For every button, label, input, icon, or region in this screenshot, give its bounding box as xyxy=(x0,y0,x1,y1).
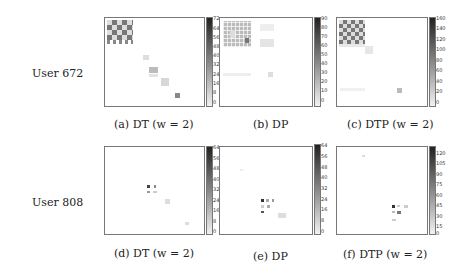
colorbar-b xyxy=(314,17,321,107)
row-label-user-808: User 808 xyxy=(32,196,83,209)
caption-b: (b) DP xyxy=(253,118,288,131)
caption-e: (e) DP xyxy=(253,250,288,263)
colorbar-a xyxy=(206,17,213,107)
caption-d: (d) DT (w = 2) xyxy=(114,247,194,260)
heatmap-b xyxy=(219,17,313,107)
colorbar-d xyxy=(206,146,213,235)
caption-f: (f) DTP (w = 2) xyxy=(343,248,427,261)
colorbar-c xyxy=(429,17,436,107)
caption-a: (a) DT (w = 2) xyxy=(114,118,194,131)
colorbar-f xyxy=(429,146,436,235)
heatmap-e xyxy=(219,146,313,235)
heatmap-d xyxy=(104,146,205,235)
heatmap-f xyxy=(336,146,428,235)
caption-c: (c) DTP (w = 2) xyxy=(347,118,434,131)
heatmap-c xyxy=(336,17,428,107)
colorbar-e xyxy=(314,144,321,235)
row-label-user-672: User 672 xyxy=(32,67,83,80)
heatmap-a xyxy=(104,17,205,107)
